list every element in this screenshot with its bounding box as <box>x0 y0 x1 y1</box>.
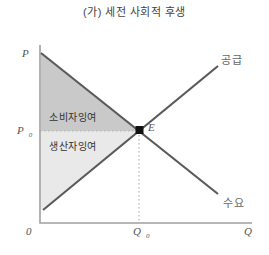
diagram-canvas: P Q 0 P 0 Q 0 E 공급 수요 소비자잉여 생산자잉여 <box>0 0 269 255</box>
consumer-surplus-label: 소비자잉여 <box>49 112 97 123</box>
y-axis-label: P <box>21 47 29 59</box>
supply-curve-label: 공급 <box>221 54 243 66</box>
demand-curve-label: 수요 <box>223 197 245 209</box>
equilibrium-point-marker <box>136 126 144 134</box>
equilibrium-price-main: P <box>16 124 24 136</box>
origin-label: 0 <box>26 225 32 237</box>
equilibrium-price-sub: 0 <box>29 131 33 139</box>
producer-surplus-label: 생산자잉여 <box>49 141 97 152</box>
x-axis-label: Q <box>244 225 252 237</box>
equilibrium-price-label: P 0 <box>16 120 33 139</box>
equilibrium-quantity-sub: 0 <box>146 232 150 240</box>
supply-demand-welfare-diagram: (가) 세전 사회적 후생 P Q 0 P 0 Q 0 <box>0 0 269 255</box>
equilibrium-point-label: E <box>147 121 155 133</box>
equilibrium-quantity-main: Q <box>133 225 141 237</box>
